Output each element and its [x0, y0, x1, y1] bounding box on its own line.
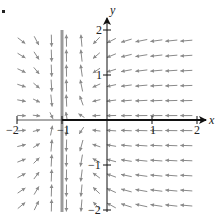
y-tick-label-minus-2: −2 [88, 203, 101, 217]
y-tick-label-1: 1 [96, 68, 102, 82]
x-tick-label-minus-1: −1 [57, 123, 70, 137]
y-axis-label: y [109, 3, 116, 17]
field-arrows [17, 35, 192, 212]
x-tick-label-1: 1 [150, 123, 156, 137]
y-tick-label-minus-1: −1 [88, 158, 101, 172]
direction-field-plot: −2 −1 1 2 2 1 −1 −2 y x [0, 0, 219, 218]
x-tick-label-minus-2: −2 [6, 123, 19, 137]
x-axis-label: x [208, 113, 215, 127]
x-tick-label-2: 2 [194, 123, 200, 137]
y-tick-label-2: 2 [96, 23, 102, 37]
